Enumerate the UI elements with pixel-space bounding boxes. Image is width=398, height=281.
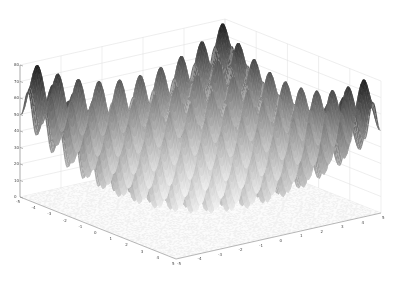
x-tick-label: -4 <box>198 257 202 261</box>
x-tick-label: 4 <box>362 221 365 225</box>
y-tick-label: 0 <box>94 231 97 235</box>
z-tick-label: 20 <box>14 162 19 166</box>
y-tick-label: 5 <box>172 262 175 266</box>
y-tick-label: -4 <box>32 206 36 210</box>
y-tick-label: -5 <box>16 200 20 204</box>
surface-plot: 01020304050607080-5-4-3-2-1012345-5-4-3-… <box>0 0 398 281</box>
x-tick-label: 1 <box>300 234 303 238</box>
x-tick-label: 5 <box>382 216 385 220</box>
y-tick-label: 4 <box>156 256 159 260</box>
y-tick-label: 3 <box>141 250 144 254</box>
y-tick-label: -2 <box>63 219 67 223</box>
x-tick-label: -2 <box>239 248 243 252</box>
z-tick-label: 50 <box>14 113 19 117</box>
x-tick-label: 3 <box>341 225 344 229</box>
z-tick-label: 80 <box>14 63 19 67</box>
y-tick-label: -1 <box>78 225 82 229</box>
x-tick-label: -3 <box>218 253 222 257</box>
x-tick-label: 0 <box>280 239 283 243</box>
x-tick-label: -5 <box>177 262 181 266</box>
z-tick-label: 30 <box>14 146 19 150</box>
z-tick-label: 10 <box>14 179 19 183</box>
x-tick-label: -1 <box>259 244 263 248</box>
surface-canvas <box>0 0 398 281</box>
x-tick-label: 2 <box>321 230 324 234</box>
y-tick-label: -3 <box>47 212 51 216</box>
y-tick-label: 1 <box>110 237 113 241</box>
z-tick-label: 70 <box>14 80 19 84</box>
z-tick-label: 60 <box>14 96 19 100</box>
z-tick-label: 40 <box>14 129 19 133</box>
y-tick-label: 2 <box>125 243 128 247</box>
